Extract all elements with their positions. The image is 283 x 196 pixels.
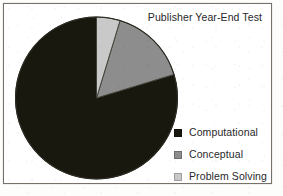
legend-swatch-conceptual [174,151,182,159]
chart-legend: Computational Conceptual Problem Solving [174,122,274,188]
scanned-chart-page: Publisher Year-End Test Computational Co… [0,0,283,196]
pie-slice-group [15,17,177,179]
legend-label-problem-solving: Problem Solving [189,170,267,183]
legend-label-computational: Computational [189,126,258,139]
pie-chart [15,14,179,182]
legend-swatch-problem-solving [174,173,182,181]
legend-item-conceptual: Conceptual [174,144,274,165]
legend-swatch-computational [174,129,182,137]
pie-chart-svg [15,14,179,182]
chart-frame: Publisher Year-End Test Computational Co… [3,3,272,184]
legend-item-problem-solving: Problem Solving [174,166,274,187]
legend-label-conceptual: Conceptual [189,148,243,161]
legend-item-computational: Computational [174,122,274,143]
chart-title: Publisher Year-End Test [148,11,262,24]
